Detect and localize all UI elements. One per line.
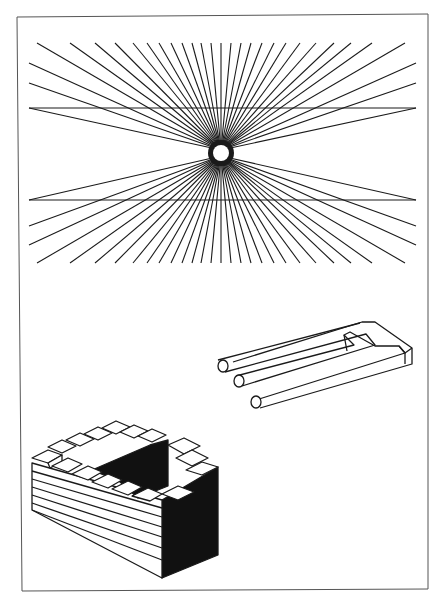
illusion-figure	[0, 0, 446, 607]
prong-end-2	[234, 375, 244, 387]
prong-end-1	[218, 360, 228, 372]
prong-end-3	[251, 396, 261, 408]
